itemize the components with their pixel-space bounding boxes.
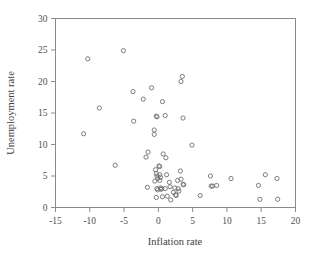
- x-tick-label: -15: [49, 216, 62, 226]
- y-tick-label: 10: [38, 140, 48, 150]
- x-tick-label: -5: [120, 216, 128, 226]
- scatter-plot-figure: -15-10-505101520 051015202530 Inflation …: [0, 0, 315, 253]
- x-axis-title: Inflation rate: [148, 236, 203, 247]
- y-tick-label: 20: [38, 77, 48, 87]
- y-tick-label: 0: [43, 203, 48, 213]
- x-tick-label: 15: [256, 216, 266, 226]
- x-tick-label: 5: [190, 216, 195, 226]
- plot-canvas: -15-10-505101520 051015202530 Inflation …: [0, 0, 315, 253]
- y-tick-label: 25: [38, 45, 48, 55]
- x-tick-label: 10: [222, 216, 232, 226]
- x-tick-label: 0: [156, 216, 161, 226]
- y-tick-label: 5: [43, 171, 48, 181]
- x-tick-label: -10: [83, 216, 96, 226]
- x-tick-label: 20: [291, 216, 301, 226]
- y-tick-label: 15: [38, 108, 48, 118]
- y-axis-title: Unemployment rate: [5, 71, 16, 155]
- y-tick-label: 30: [38, 14, 48, 24]
